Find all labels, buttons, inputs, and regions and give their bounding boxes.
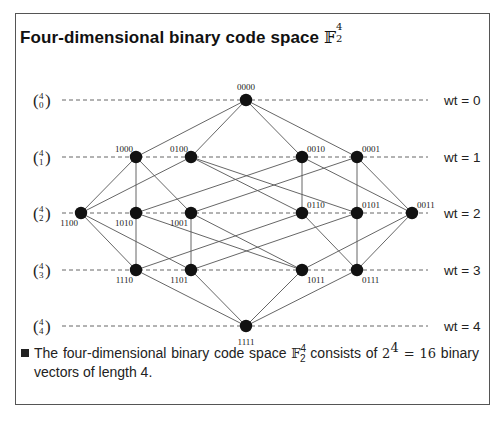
node-0001: 0001 bbox=[351, 144, 380, 163]
node-label: 1100 bbox=[60, 218, 78, 228]
node-0010: 0010 bbox=[296, 144, 326, 163]
edge-1101-1111 bbox=[191, 270, 246, 326]
binomial-label: (42) bbox=[33, 204, 51, 223]
caption-power-exp: 4 bbox=[390, 340, 398, 355]
binomial-label: (44) bbox=[33, 317, 51, 336]
binom-bottom: 4 bbox=[39, 326, 44, 336]
edge-0111-1111 bbox=[246, 270, 357, 326]
edge-1000-1100 bbox=[81, 157, 136, 213]
binomial-label: (41) bbox=[33, 148, 51, 167]
caption-text-1: The four-dimensional binary code space bbox=[34, 345, 291, 361]
node-1000: 1000 bbox=[115, 144, 142, 163]
node-label: 1001 bbox=[170, 218, 188, 228]
node-1111: 1111 bbox=[238, 320, 255, 347]
node-label: 1101 bbox=[170, 275, 188, 285]
binom-right-paren: ) bbox=[45, 148, 51, 167]
binomial-label: (43) bbox=[33, 261, 51, 280]
edge-0000-1000 bbox=[136, 100, 246, 157]
caption-text-2: consists of bbox=[306, 345, 383, 361]
binom-right-paren: ) bbox=[45, 204, 51, 223]
codeword-nodes: 0000100001000010000111001010100101100101… bbox=[60, 82, 434, 347]
binom-bottom: 2 bbox=[39, 213, 44, 223]
binom-right-paren: ) bbox=[45, 317, 51, 336]
node-label: 1110 bbox=[116, 275, 134, 285]
node-label: 1010 bbox=[115, 218, 134, 228]
node-0111: 0111 bbox=[351, 264, 380, 285]
node-label: 1000 bbox=[115, 144, 134, 154]
weight-label: wt = 4 bbox=[443, 319, 481, 334]
edge-1001-1011 bbox=[191, 213, 302, 270]
node-1101: 1101 bbox=[170, 264, 197, 285]
edge-0000-0010 bbox=[246, 100, 302, 157]
node-label: 0011 bbox=[417, 200, 435, 210]
node-0101: 0101 bbox=[351, 200, 380, 219]
weight-label: wt = 2 bbox=[443, 206, 480, 221]
binom-bottom: 0 bbox=[39, 100, 44, 110]
edge-0101-1101 bbox=[191, 213, 357, 270]
node-0000: 0000 bbox=[237, 82, 256, 106]
node-dot-icon bbox=[240, 320, 252, 332]
node-label: 0010 bbox=[307, 144, 326, 154]
caption-equals: = 16 bbox=[399, 346, 436, 361]
edge-0000-0001 bbox=[246, 100, 357, 157]
weight-label: wt = 1 bbox=[443, 150, 480, 165]
node-0110: 0110 bbox=[296, 200, 325, 219]
node-dot-icon bbox=[240, 94, 252, 106]
node-0011: 0011 bbox=[406, 200, 435, 219]
node-label: 0101 bbox=[362, 200, 380, 210]
node-label: 0100 bbox=[170, 144, 189, 154]
edge-0000-0100 bbox=[191, 100, 246, 157]
bullet-square-icon bbox=[21, 349, 29, 357]
weight-label: wt = 3 bbox=[443, 263, 480, 278]
edge-0100-0110 bbox=[191, 157, 302, 213]
node-1110: 1110 bbox=[116, 264, 143, 285]
edge-1000-1001 bbox=[136, 157, 191, 213]
node-label: 0000 bbox=[237, 82, 256, 92]
node-1011: 1011 bbox=[296, 264, 325, 285]
binom-bottom: 1 bbox=[39, 157, 44, 167]
node-1100: 1100 bbox=[60, 207, 87, 228]
node-1001: 1001 bbox=[170, 207, 197, 228]
node-label: 1011 bbox=[307, 275, 325, 285]
binom-right-paren: ) bbox=[45, 91, 51, 110]
edge-0011-0111 bbox=[357, 213, 412, 270]
figure-caption: The four-dimensional binary code space 𝔽… bbox=[34, 344, 479, 382]
node-label: 0111 bbox=[362, 275, 379, 285]
binom-right-paren: ) bbox=[45, 261, 51, 280]
weight-label: wt = 0 bbox=[443, 93, 480, 108]
weight-level-dashed-lines bbox=[62, 100, 428, 326]
edge-1110-1111 bbox=[136, 270, 246, 326]
node-label: 0001 bbox=[362, 144, 380, 154]
binom-bottom: 3 bbox=[39, 270, 44, 280]
edge-1011-1111 bbox=[246, 270, 302, 326]
edge-0110-0111 bbox=[302, 213, 357, 270]
edge-0010-1010 bbox=[136, 157, 302, 213]
node-1010: 1010 bbox=[115, 207, 142, 228]
binomial-label: (40) bbox=[33, 91, 51, 110]
node-label: 0110 bbox=[307, 200, 325, 210]
